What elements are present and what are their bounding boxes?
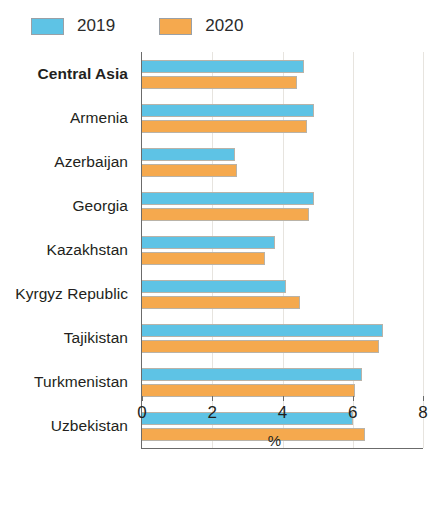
bar-2019	[142, 324, 383, 337]
x-tick-label: 2	[208, 403, 217, 423]
bar-2020	[142, 164, 237, 177]
legend-entry-2019: 2019	[31, 16, 115, 36]
value-axis: 02468	[142, 396, 423, 430]
bar-group	[142, 228, 423, 272]
category-label-turkmenistan: Turkmenistan	[0, 360, 136, 404]
bar-2020	[142, 252, 265, 265]
bar-group	[142, 316, 423, 360]
legend-swatch-2020-icon	[159, 18, 192, 35]
bar-2019	[142, 60, 304, 73]
bar-2019	[142, 104, 314, 117]
value-axis-label-text: %	[268, 432, 281, 449]
bar-group	[142, 272, 423, 316]
bar-2019	[142, 148, 235, 161]
category-label-central-asia: Central Asia	[0, 52, 136, 96]
bar-2019	[142, 192, 314, 205]
bar-group	[142, 96, 423, 140]
bar-2020	[142, 384, 355, 397]
value-axis-label: %	[142, 432, 423, 449]
bar-2019	[142, 280, 286, 293]
category-label-tajikistan: Tajikistan	[0, 316, 136, 360]
bar-groups	[142, 52, 423, 448]
bar-2020	[142, 120, 307, 133]
category-label-uzbekistan: Uzbekistan	[0, 404, 136, 448]
legend-entry-2020: 2020	[159, 16, 243, 36]
bars-panel	[142, 52, 423, 448]
bar-group	[142, 52, 423, 96]
bar-group	[142, 184, 423, 228]
bar-2020	[142, 76, 297, 89]
bar-2020	[142, 340, 379, 353]
legend-swatch-2019-icon	[31, 18, 64, 35]
category-label-armenia: Armenia	[0, 96, 136, 140]
legend-label-2019: 2019	[77, 16, 115, 36]
legend-label-2020: 2020	[205, 16, 243, 36]
bar-2020	[142, 208, 309, 221]
x-tick-mark	[353, 396, 354, 401]
x-tick-mark	[142, 396, 143, 401]
gridline	[423, 52, 424, 448]
x-tick-label: 8	[418, 403, 427, 423]
x-tick-label: 0	[137, 403, 146, 423]
x-tick-label: 6	[348, 403, 357, 423]
chart-legend: 2019 2020	[0, 0, 423, 52]
x-tick-label: 4	[278, 403, 287, 423]
x-tick-mark	[212, 396, 213, 401]
bar-group	[142, 140, 423, 184]
category-axis: Central Asia Armenia Azerbaijan Georgia …	[0, 52, 136, 448]
category-label-kyrgyz-republic: Kyrgyz Republic	[0, 272, 136, 316]
category-label-azerbaijan: Azerbaijan	[0, 140, 136, 184]
bar-2020	[142, 296, 300, 309]
bar-2019	[142, 236, 275, 249]
x-tick-mark	[423, 396, 424, 401]
category-label-kazakhstan: Kazakhstan	[0, 228, 136, 272]
category-label-georgia: Georgia	[0, 184, 136, 228]
bar-2019	[142, 368, 362, 381]
x-tick-mark	[283, 396, 284, 401]
